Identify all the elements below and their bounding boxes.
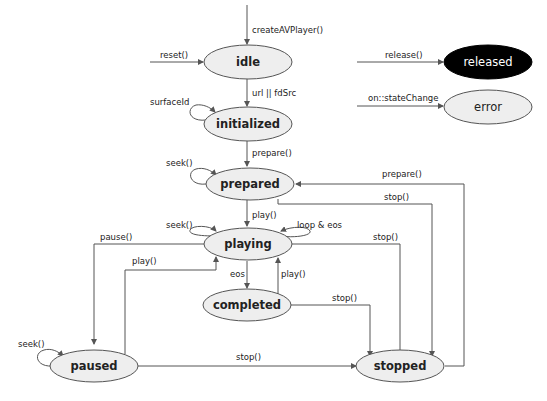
state-paused: paused (50, 350, 138, 382)
edge-label-statechange: on::stateChange (368, 93, 438, 103)
state-released-label: released (463, 55, 512, 69)
edge-label-seek-paused: seek() (18, 339, 44, 349)
edge-label-seek-playing: seek() (166, 220, 192, 230)
edge-label-play-prepared: play() (252, 210, 277, 220)
edge-label-stop-prepared: stop() (384, 192, 409, 202)
state-stopped: stopped (356, 350, 444, 382)
edge-label-stop-completed: stop() (332, 293, 357, 303)
edge-label-pause: pause() (100, 232, 132, 242)
state-error-label: error (474, 100, 502, 114)
edge-label-play-completed: play() (281, 269, 306, 279)
avplayer-state-diagram: createAVPlayer() reset() url || fdSrc su… (0, 0, 547, 401)
state-idle-label: idle (236, 55, 260, 69)
edge-label-prepare-stopped: prepare() (382, 169, 422, 179)
state-completed-label: completed (213, 298, 281, 312)
edge-label-eos: eos (230, 269, 245, 279)
state-paused-label: paused (70, 359, 117, 373)
state-released: released (444, 45, 532, 79)
edge-label-seek-prepared: seek() (166, 158, 192, 168)
edge-stop-completed (291, 305, 370, 356)
edge-label-play-paused: play() (132, 256, 157, 266)
edge-prepare-stopped (296, 184, 464, 366)
state-prepared-label: prepared (220, 177, 279, 191)
state-playing: playing (204, 228, 292, 260)
edge-label-release: release() (385, 50, 423, 60)
state-prepared: prepared (206, 168, 294, 200)
state-initialized: initialized (204, 107, 292, 141)
state-completed: completed (203, 289, 291, 321)
state-error: error (444, 90, 532, 124)
edge-label-reset: reset() (160, 50, 188, 60)
edge-label-loop-eos: loop & eos (297, 220, 343, 230)
edge-label-surfaceid: surfaceId (150, 97, 189, 107)
state-stopped-label: stopped (374, 359, 427, 373)
edge-label-url-fdsrc: url || fdSrc (252, 88, 296, 98)
edge-label-create: createAVPlayer() (252, 25, 323, 35)
edge-label-stop-paused: stop() (236, 352, 261, 362)
edge-label-stop-playing: stop() (373, 232, 398, 242)
state-initialized-label: initialized (216, 117, 280, 131)
edge-label-prepare-init: prepare() (252, 148, 292, 158)
state-playing-label: playing (224, 237, 271, 251)
edge-play-paused (125, 257, 216, 354)
state-idle: idle (204, 45, 292, 79)
